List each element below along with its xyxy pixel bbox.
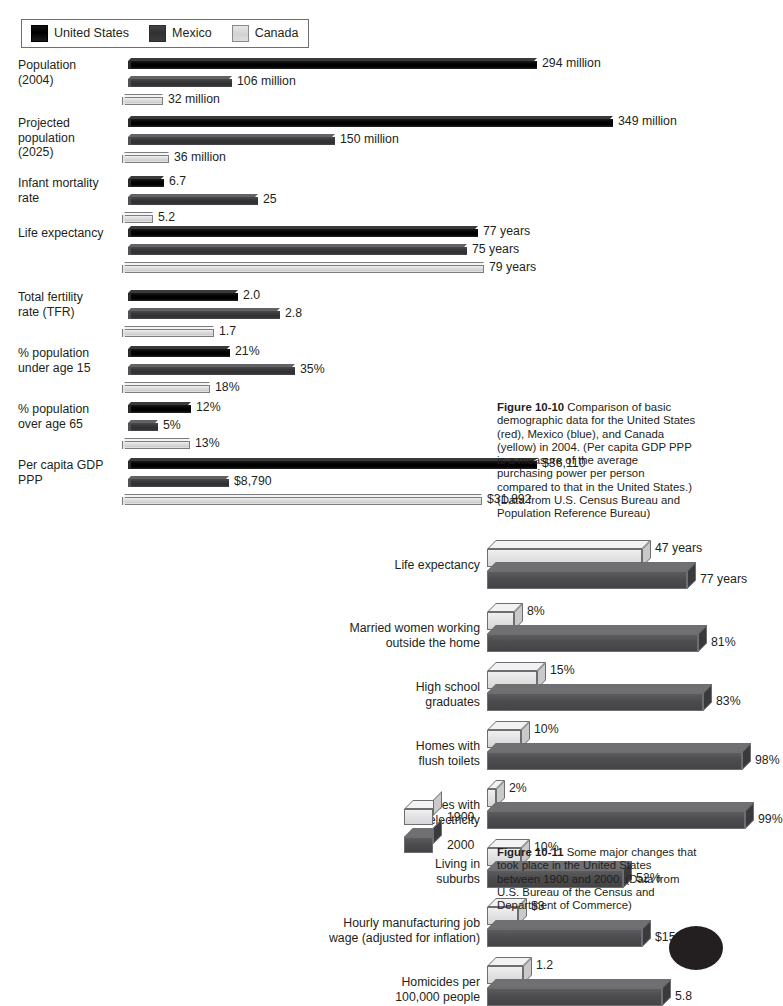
- category-label-line: suburbs: [220, 872, 480, 887]
- bar-value-label: 77 years: [483, 225, 530, 238]
- category-label: Infant mortality rate: [18, 176, 123, 205]
- bar-value-label: $8,790: [234, 475, 272, 488]
- bar-value-label: 32 million: [168, 93, 220, 106]
- legend-swatch-united-states: [31, 25, 48, 42]
- legend-label-canada: Canada: [255, 27, 299, 40]
- bar-value-label: 2.0: [243, 289, 260, 302]
- legend-label-mexico: Mexico: [172, 27, 212, 40]
- bar-ca: [122, 94, 163, 105]
- legend-item-united-states: United States: [31, 25, 129, 42]
- legend-figure-10-10: United States Mexico Canada: [21, 19, 309, 48]
- category-label: High schoolgraduates: [220, 680, 480, 709]
- bar-value-label: 79 years: [489, 261, 536, 274]
- bar-ca: [122, 494, 482, 505]
- category-label-line: rate (TFR): [18, 305, 123, 320]
- category-label-line: flush toilets: [220, 754, 480, 769]
- category-label-line: Homes with: [220, 739, 480, 754]
- category-label-line: High school: [220, 680, 480, 695]
- bar-mx: [128, 364, 295, 375]
- category-label-line: Infant mortality rate: [18, 176, 123, 205]
- bar-value-label: 21%: [235, 345, 260, 358]
- category-label: Per capita GDP PPP: [18, 458, 123, 487]
- bar-y2000: [487, 625, 698, 652]
- category-label-line: % population: [18, 346, 123, 361]
- category-label-line: % population: [18, 402, 123, 417]
- bar-value-label: 75 years: [472, 243, 519, 256]
- bar-value-label: 83%: [716, 695, 741, 708]
- category-label: Homes withflush toilets: [220, 739, 480, 768]
- legend-cube-2000: [404, 828, 442, 853]
- bar-us: [128, 346, 230, 357]
- category-label-line: Married women working: [220, 621, 480, 636]
- bar-ca: [122, 382, 210, 393]
- legend-cube-1900: [404, 800, 442, 825]
- bar-value-label: 18%: [215, 381, 240, 394]
- category-label-line: Population: [18, 58, 123, 73]
- caption-figure-10-10: Figure 10-10 Comparison of basic demogra…: [497, 401, 697, 521]
- bar-us: [128, 458, 537, 469]
- category-label-line: 100,000 people: [220, 990, 480, 1005]
- bar-value-label: 13%: [195, 437, 220, 450]
- legend-swatch-mexico: [149, 25, 166, 42]
- bar-ca: [122, 262, 484, 273]
- category-label: % populationover age 65: [18, 402, 123, 431]
- caption-number-10-10: Figure 10-10: [497, 401, 564, 413]
- bar-value-label: 81%: [711, 636, 736, 649]
- bar-mx: [128, 76, 232, 87]
- bar-value-label: 5.8: [675, 990, 692, 1003]
- bar-ca: [122, 212, 153, 223]
- bar-us: [128, 58, 537, 69]
- category-label-line: Homicides per: [220, 975, 480, 990]
- legend-item-canada: Canada: [232, 25, 299, 42]
- bar-value-label: 98%: [755, 754, 780, 767]
- category-label-line: Hourly manufacturing job: [220, 916, 480, 931]
- bar-value-label: 15%: [550, 664, 575, 677]
- caption-number-10-11: Figure 10-11: [497, 846, 563, 858]
- category-label: Life expectancy: [220, 558, 480, 573]
- bar-mx: [128, 308, 280, 319]
- bar-y2000: [487, 562, 687, 589]
- category-label-line: Projected population: [18, 116, 123, 145]
- legend-label-2000: 2000: [447, 830, 474, 852]
- bar-value-label: 106 million: [237, 75, 296, 88]
- bar-value-label: 2.8: [285, 307, 302, 320]
- bar-value-label: 25: [263, 193, 277, 206]
- bar-value-label: 10%: [534, 723, 559, 736]
- bar-mx: [128, 476, 229, 487]
- category-label: % populationunder age 15: [18, 346, 123, 375]
- category-label: Hourly manufacturing jobwage (adjusted f…: [220, 916, 480, 945]
- bar-y2000: [487, 979, 662, 1006]
- bar-ca: [122, 152, 169, 163]
- category-label-line: Life expectancy: [18, 226, 123, 241]
- category-label: Life expectancy: [18, 226, 123, 241]
- bar-value-label: 35%: [300, 363, 325, 376]
- bar-us: [128, 226, 478, 237]
- bar-y2000: [487, 743, 742, 770]
- bar-value-label: 8%: [527, 605, 545, 618]
- legend-label-united-states: United States: [54, 27, 129, 40]
- bar-y2000: [487, 802, 745, 829]
- legend-swatch-canada: [232, 25, 249, 42]
- legend-label-1900: 1900: [447, 802, 474, 824]
- bar-ca: [122, 326, 214, 337]
- bar-y2000: [487, 920, 642, 947]
- category-label-line: over age 65: [18, 417, 123, 432]
- bar-value-label: 12%: [196, 401, 221, 414]
- bar-value-label: 36 million: [174, 151, 226, 164]
- category-label: Living insuburbs: [220, 857, 480, 886]
- bar-us: [128, 176, 164, 187]
- bar-value-label: 1.7: [219, 325, 236, 338]
- caption-figure-10-11: Figure 10-11 Some major changes that too…: [497, 846, 697, 912]
- bar-value-label: 349 million: [618, 115, 677, 128]
- category-label: Married women workingoutside the home: [220, 621, 480, 650]
- bar-value-label: 99%: [758, 813, 783, 826]
- category-label-line: Per capita GDP PPP: [18, 458, 123, 487]
- bar-y2000: [487, 684, 703, 711]
- bar-value-label: 1.2: [536, 959, 553, 972]
- category-label-line: under age 15: [18, 361, 123, 376]
- bar-value-label: 2%: [509, 782, 527, 795]
- category-label-line: (2025): [18, 145, 123, 160]
- bar-us: [128, 290, 238, 301]
- category-label-line: (2004): [18, 73, 123, 88]
